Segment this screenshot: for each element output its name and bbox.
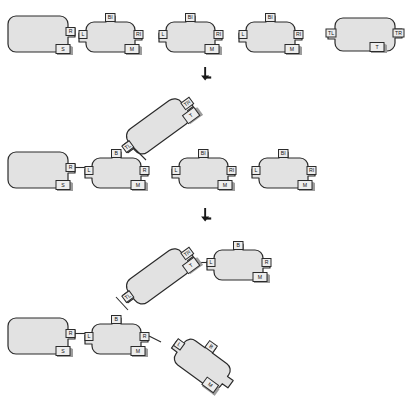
piece-rotated-upper-connector-s3[interactable]: TL TR T (117, 239, 203, 314)
tab-label-l: L (175, 167, 178, 173)
tab-ri: RI (214, 31, 223, 39)
tab-label-r: R (69, 330, 73, 336)
connector-r-to-l-lower-s3 (149, 336, 161, 342)
piece-branch-b-s1[interactable]: BI L RI M (159, 14, 223, 56)
tab-label-l: L (210, 259, 213, 265)
piece-root-s1[interactable]: R S (8, 16, 75, 55)
tab-label-ri: RI (229, 167, 234, 173)
tab-r: R (66, 330, 75, 338)
tab-r: R (140, 167, 149, 175)
tab-m: M (218, 181, 235, 192)
tab-label-bi: BI (188, 14, 193, 20)
tab-label-l: L (88, 333, 91, 339)
tab-label-m: M (258, 274, 262, 280)
piece-free-branch-a-s2[interactable]: BI L RI M (172, 150, 236, 192)
tab-label-tl: TL (328, 30, 334, 36)
tab-bi: BI (106, 14, 116, 22)
tab-t: T (370, 43, 387, 54)
tab-bi: BI (186, 14, 196, 22)
tab-s: S (56, 45, 73, 56)
piece-terminal-s1[interactable]: TL TR T (326, 18, 404, 53)
tab-label-m: M (130, 46, 134, 52)
tab-label-ri: RI (216, 31, 221, 37)
tab-bi: BI (266, 14, 276, 22)
tab-label-s: S (61, 46, 65, 52)
tab-r: R (262, 259, 271, 267)
tab-r: R (140, 333, 149, 341)
tab-m: M (205, 45, 222, 56)
tab-label-bi: BI (268, 14, 273, 20)
tab-label-r: R (265, 259, 269, 265)
tab-label-bi: BI (201, 150, 206, 156)
piece-root-s3[interactable]: R S (8, 318, 75, 357)
stage-1-to-stage-2-arrow (201, 67, 211, 81)
tab-label-l: L (242, 31, 245, 37)
piece-root-s2[interactable]: R S (8, 152, 75, 191)
tab-label-l: L (255, 167, 258, 173)
tab-label-s: S (61, 182, 65, 188)
tab-l: L (252, 167, 260, 175)
tab-label-r: R (69, 164, 73, 170)
tab-label-m: M (303, 182, 307, 188)
tab-s: S (56, 347, 73, 358)
tab-b: B (112, 316, 122, 324)
piece-connected-branch-s2[interactable]: B L R M (85, 150, 149, 192)
tab-label-r: R (143, 167, 147, 173)
tab-label-ri: RI (296, 31, 301, 37)
tab-m: M (285, 45, 302, 56)
tab-r: R (66, 164, 75, 172)
tab-label-m: M (223, 182, 227, 188)
tab-label-ri: RI (136, 31, 141, 37)
stage-1-group: R S BI L (8, 14, 404, 56)
tab-label-ri: RI (309, 167, 314, 173)
tab-ri: RI (227, 167, 236, 175)
tab-label-b: B (114, 316, 118, 322)
tab-label-l: L (88, 167, 91, 173)
tab-bi: BI (199, 150, 209, 158)
tab-l: L (85, 167, 93, 175)
tab-label-tr: TR (395, 30, 402, 36)
piece-rotated-attached-s2[interactable]: TL TR T (117, 89, 203, 164)
tab-r: R (66, 28, 75, 36)
tab-label-l: L (82, 31, 85, 37)
tab-m: M (131, 181, 148, 192)
tab-label-l: L (162, 31, 165, 37)
piece-free-branch-b-s2[interactable]: BI L RI M (252, 150, 316, 192)
tab-tr: TR (393, 29, 404, 37)
tab-ri: RI (134, 31, 143, 39)
tab-label-m: M (136, 182, 140, 188)
tab-label-bi: BI (108, 14, 113, 20)
tab-tl: TL (326, 29, 336, 37)
tab-l: L (239, 31, 247, 39)
assembly-diagram: R S BI L (0, 0, 414, 404)
tab-m: M (298, 181, 315, 192)
tab-label-bi: BI (281, 150, 286, 156)
tab-label-r: R (143, 333, 147, 339)
tab-m: M (253, 273, 270, 284)
tab-label-m: M (210, 46, 214, 52)
piece-branch-a-s1[interactable]: BI L RI M (79, 14, 143, 56)
tab-b: B (112, 150, 122, 158)
tab-m: M (131, 347, 148, 358)
piece-rotated-lower-leaf-s3[interactable]: B L M (164, 325, 244, 399)
stage-2-to-stage-3-arrow (201, 208, 211, 222)
tab-m: M (125, 45, 142, 56)
stage-3-group: B L R M (8, 239, 271, 399)
tab-label-s: S (61, 348, 65, 354)
tab-ri: RI (307, 167, 316, 175)
tab-l: L (79, 31, 87, 39)
tab-l: L (85, 333, 93, 341)
tab-b: B (234, 242, 244, 250)
tab-ri: RI (294, 31, 303, 39)
tab-label-b: B (236, 242, 240, 248)
tab-label-m: M (136, 348, 140, 354)
piece-upper-right-leaf-s3[interactable]: B L R M (207, 242, 271, 284)
tab-s: S (56, 181, 73, 192)
tab-label-r: R (69, 28, 73, 34)
tab-l: L (172, 167, 180, 175)
piece-hub-s3[interactable]: B L R M (85, 316, 149, 358)
tab-label-b: B (114, 150, 118, 156)
tab-bi: BI (279, 150, 289, 158)
tab-l: L (207, 259, 215, 267)
piece-branch-c-s1[interactable]: BI L RI M (239, 14, 303, 56)
